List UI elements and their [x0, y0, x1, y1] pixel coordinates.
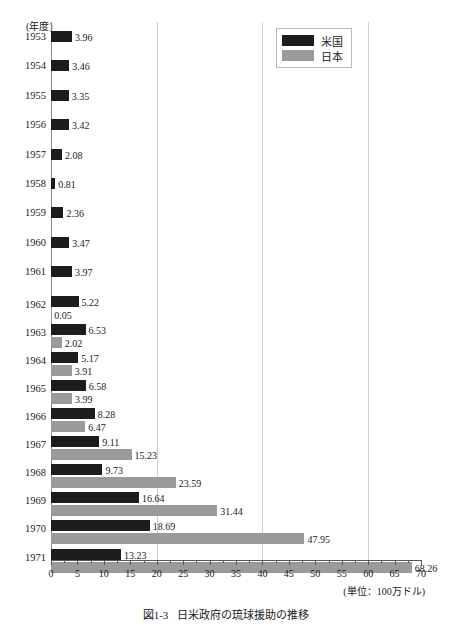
bar-value-us-1955: 3.35 — [72, 92, 90, 102]
bar-value-us-1956: 3.42 — [72, 121, 90, 131]
bar-us-1969[interactable] — [51, 492, 139, 503]
bar-value-us-1960: 3.47 — [72, 239, 90, 249]
legend: 米国 日本 — [276, 28, 352, 68]
bar-value-us-1967: 9.11 — [102, 438, 119, 448]
x-tick-mark-25 — [183, 560, 184, 565]
bar-us-1953[interactable] — [51, 31, 72, 42]
x-tick-label-25: 25 — [178, 568, 188, 579]
x-tick-minor — [91, 560, 92, 563]
x-tick-label-40: 40 — [257, 568, 267, 579]
year-label-1961: 1961 — [25, 267, 46, 278]
bar-us-1967[interactable] — [51, 436, 99, 447]
bar-jp-1965[interactable] — [51, 393, 72, 404]
plot-area: 19533.9619543.4619553.3519563.4219572.08… — [51, 22, 421, 560]
bar-value-us-1958: 0.81 — [58, 180, 76, 190]
x-tick-label-15: 15 — [125, 568, 135, 579]
bar-us-1961[interactable] — [51, 266, 72, 277]
year-label-1965: 1965 — [25, 384, 46, 395]
bar-us-1965[interactable] — [51, 380, 86, 391]
year-label-1967: 1967 — [25, 440, 46, 451]
x-tick-mark-50 — [315, 560, 316, 565]
x-tick-minor — [276, 560, 277, 563]
bar-value-us-1954: 3.46 — [72, 62, 90, 72]
x-tick-minor — [117, 560, 118, 563]
x-tick-label-0: 0 — [49, 568, 54, 579]
figure-container: (年度) 19533.9619543.4619553.3519563.42195… — [0, 0, 452, 630]
legend-item-us[interactable]: 米国 — [282, 33, 343, 48]
year-label-1953: 1953 — [25, 32, 46, 43]
bar-us-1964[interactable] — [51, 352, 78, 363]
bar-us-1962[interactable] — [51, 296, 79, 307]
figure-caption: 図1-3日米政府の琉球援助の推移 — [0, 606, 452, 622]
x-tick-minor — [223, 560, 224, 563]
bar-jp-1962[interactable] — [51, 309, 52, 320]
bar-value-us-1971: 13.23 — [124, 551, 147, 561]
x-tick-minor — [249, 560, 250, 563]
x-tick-mark-15 — [130, 560, 131, 565]
bar-value-us-1962: 5.22 — [82, 298, 100, 308]
bar-value-jp-1968: 23.59 — [179, 479, 202, 489]
x-tick-mark-5 — [77, 560, 78, 565]
bar-us-1957[interactable] — [51, 149, 62, 160]
bar-us-1968[interactable] — [51, 464, 102, 475]
x-tick-label-45: 45 — [284, 568, 294, 579]
bar-us-1971[interactable] — [51, 549, 121, 560]
caption-text: 日米政府の琉球援助の推移 — [177, 609, 309, 621]
gridline-40 — [262, 22, 263, 560]
bar-us-1963[interactable] — [51, 324, 86, 335]
legend-item-jp[interactable]: 日本 — [282, 48, 343, 63]
legend-swatch-jp-icon — [282, 50, 314, 61]
bar-value-jp-1967: 15.23 — [135, 451, 158, 461]
gridline-60 — [368, 22, 369, 560]
bar-us-1959[interactable] — [51, 207, 63, 218]
x-tick-label-35: 35 — [231, 568, 241, 579]
bar-value-jp-1963: 2.02 — [65, 339, 83, 349]
x-tick-label-55: 55 — [337, 568, 347, 579]
bar-jp-1966[interactable] — [51, 421, 85, 432]
caption-number: 図1-3 — [143, 609, 169, 621]
x-tick-mark-35 — [236, 560, 237, 565]
bar-us-1956[interactable] — [51, 119, 69, 130]
bar-us-1970[interactable] — [51, 520, 150, 531]
year-label-1956: 1956 — [25, 120, 46, 131]
bar-jp-1963[interactable] — [51, 337, 62, 348]
bar-jp-1969[interactable] — [51, 505, 217, 516]
bar-jp-1964[interactable] — [51, 365, 72, 376]
x-tick-minor — [144, 560, 145, 563]
bar-value-us-1970: 18.69 — [153, 522, 176, 532]
bar-us-1966[interactable] — [51, 408, 95, 419]
x-tick-label-20: 20 — [152, 568, 162, 579]
bar-value-us-1957: 2.08 — [65, 151, 83, 161]
x-tick-minor — [408, 560, 409, 563]
unit-label: (単位：100万ドル) — [343, 583, 425, 598]
x-tick-mark-70 — [421, 560, 422, 565]
bar-value-us-1961: 3.97 — [75, 268, 93, 278]
bar-us-1954[interactable] — [51, 60, 69, 71]
year-label-1969: 1969 — [25, 496, 46, 507]
bar-jp-1967[interactable] — [51, 449, 132, 460]
x-tick-mark-40 — [262, 560, 263, 565]
year-label-1970: 1970 — [25, 524, 46, 535]
bar-us-1958[interactable] — [51, 178, 55, 189]
year-label-1955: 1955 — [25, 91, 46, 102]
x-tick-mark-45 — [289, 560, 290, 565]
x-tick-label-5: 5 — [75, 568, 80, 579]
x-tick-label-65: 65 — [390, 568, 400, 579]
year-label-1966: 1966 — [25, 412, 46, 423]
bar-value-jp-1966: 6.47 — [88, 423, 106, 433]
year-label-1960: 1960 — [25, 238, 46, 249]
x-tick-label-30: 30 — [205, 568, 215, 579]
year-label-1962: 1962 — [25, 300, 46, 311]
bar-value-jp-1970: 47.95 — [307, 535, 330, 545]
x-tick-mark-0 — [51, 560, 52, 565]
bar-value-jp-1962: 0.05 — [54, 311, 72, 321]
bar-jp-1968[interactable] — [51, 477, 176, 488]
bar-jp-1970[interactable] — [51, 533, 304, 544]
x-tick-minor — [64, 560, 65, 563]
bar-value-us-1968: 9.73 — [105, 466, 123, 476]
bar-value-us-1969: 16.64 — [142, 494, 165, 504]
x-tick-minor — [170, 560, 171, 563]
bar-us-1960[interactable] — [51, 237, 69, 248]
bar-us-1955[interactable] — [51, 90, 69, 101]
year-label-1964: 1964 — [25, 356, 46, 367]
